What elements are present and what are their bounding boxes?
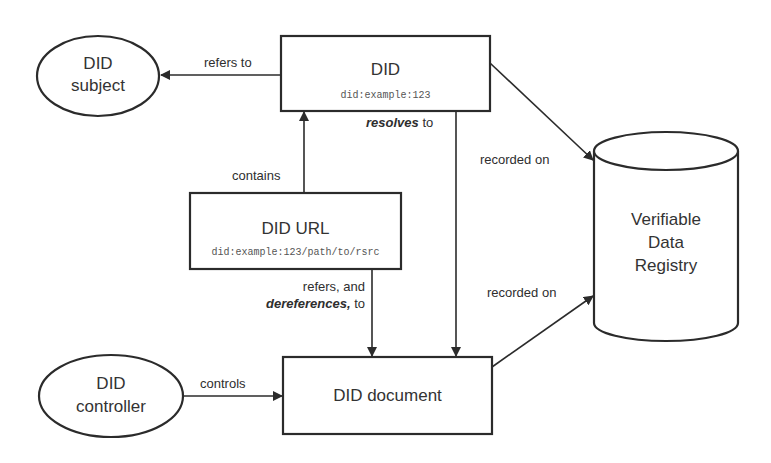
- edge-label-dereferences-bold: dereferences,: [266, 296, 351, 311]
- did-subject-label-line2: subject: [48, 76, 148, 96]
- did-url-example: did:example:123/path/to/rsrc: [190, 247, 401, 258]
- did-controller-label-line2: controller: [51, 397, 171, 417]
- edge-label-resolves-rest: to: [419, 115, 433, 130]
- did-controller-node: [39, 355, 183, 437]
- did-document-title: DID document: [283, 386, 492, 406]
- edge-label-refers-to: refers to: [204, 55, 252, 70]
- did-url-title: DID URL: [190, 219, 401, 239]
- edge-recorded-on-doc: [492, 296, 593, 367]
- registry-label-line2: Data: [594, 233, 738, 253]
- did-controller-label-line1: DID: [51, 374, 171, 394]
- edge-label-dereferences-line1: refers, and: [285, 279, 365, 294]
- did-example: did:example:123: [281, 90, 490, 101]
- edge-label-resolves-to: resolves to: [366, 115, 433, 130]
- edge-recorded-on-did: [490, 63, 593, 160]
- edge-label-resolves-bold: resolves: [366, 115, 419, 130]
- edge-label-controls: controls: [200, 376, 246, 391]
- registry-label-line3: Registry: [594, 256, 738, 276]
- edge-label-dereferences-rest: to: [351, 296, 365, 311]
- edge-label-contains: contains: [232, 168, 280, 183]
- registry-label-line1: Verifiable: [594, 210, 738, 230]
- did-title: DID: [281, 60, 490, 80]
- edge-label-recorded-on-did: recorded on: [480, 152, 549, 167]
- edge-label-recorded-on-doc: recorded on: [487, 285, 556, 300]
- edge-label-dereferences-line2: dereferences, to: [232, 296, 365, 311]
- did-subject-label-line1: DID: [48, 54, 148, 74]
